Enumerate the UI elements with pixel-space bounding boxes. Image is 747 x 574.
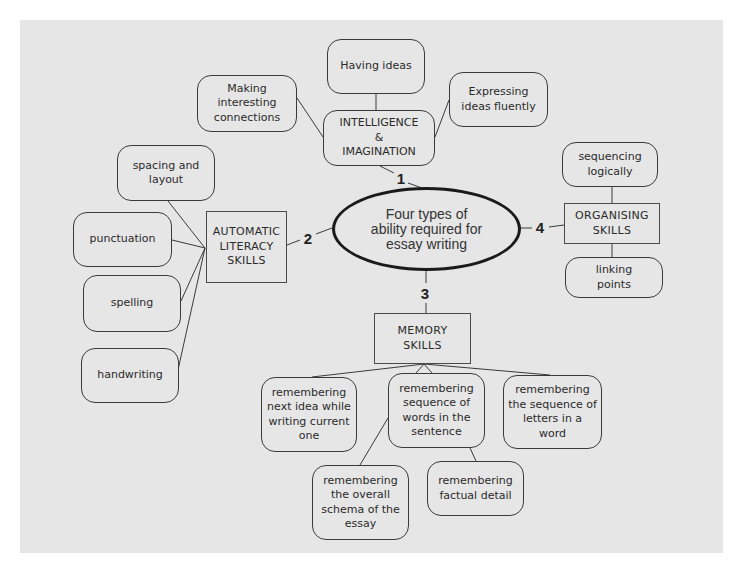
organising-skills-label: ORGANISING SKILLS — [575, 209, 649, 238]
intelligence-imagination-label: INTELLIGENCE & IMAGINATION — [340, 116, 419, 160]
central-topic-label: Four types of ability required for essay… — [371, 207, 482, 252]
spelling-node: spelling — [83, 275, 181, 332]
making-connections-label: Making interesting connections — [214, 82, 280, 126]
branch-number-1: 1 — [396, 171, 406, 186]
central-topic: Four types of ability required for essay… — [332, 187, 521, 271]
branch-number-4: 4 — [535, 220, 545, 235]
having-ideas-node: Having ideas — [327, 39, 425, 94]
spacing-layout-node: spacing and layout — [117, 145, 215, 201]
punctuation-label: punctuation — [89, 232, 155, 247]
remembering-factual-detail-node: remembering factual detail — [427, 461, 524, 516]
spelling-label: spelling — [111, 296, 154, 311]
automatic-literacy-label: AUTOMATIC LITERACY SKILLS — [213, 225, 280, 269]
sequencing-logically-label: sequencing logically — [578, 150, 641, 179]
expressing-ideas-node: Expressing ideas fluently — [449, 72, 548, 127]
linking-points-node: linking points — [565, 257, 663, 298]
remembering-letter-sequence-label: remembering the sequence of letters in a… — [508, 383, 597, 441]
intelligence-imagination-node: INTELLIGENCE & IMAGINATION — [323, 110, 435, 166]
sequencing-logically-node: sequencing logically — [562, 142, 658, 187]
branch-number-2: 2 — [303, 231, 313, 246]
automatic-literacy-node: AUTOMATIC LITERACY SKILLS — [206, 211, 287, 283]
remembering-schema-label: remembering the overall schema of the es… — [321, 474, 400, 532]
handwriting-label: handwriting — [97, 368, 163, 383]
spacing-layout-label: spacing and layout — [133, 159, 200, 188]
remembering-word-sequence-label: remembering sequence of words in the sen… — [399, 382, 474, 440]
expressing-ideas-label: Expressing ideas fluently — [461, 85, 535, 114]
branch-number-3: 3 — [420, 286, 430, 301]
remembering-next-idea-label: remembering next idea while writing curr… — [267, 386, 351, 444]
remembering-word-sequence-node: remembering sequence of words in the sen… — [388, 373, 485, 448]
punctuation-node: punctuation — [73, 212, 172, 267]
remembering-letter-sequence-node: remembering the sequence of letters in a… — [503, 375, 602, 449]
remembering-schema-node: remembering the overall schema of the es… — [312, 465, 409, 540]
memory-skills-node: MEMORY SKILLS — [374, 313, 471, 364]
organising-skills-node: ORGANISING SKILLS — [564, 203, 660, 244]
linking-points-label: linking points — [596, 263, 632, 292]
remembering-next-idea-node: remembering next idea while writing curr… — [261, 377, 357, 452]
remembering-factual-detail-label: remembering factual detail — [438, 474, 513, 503]
making-connections-node: Making interesting connections — [197, 75, 297, 132]
memory-skills-label: MEMORY SKILLS — [397, 324, 447, 353]
handwriting-node: handwriting — [81, 348, 179, 403]
having-ideas-label: Having ideas — [340, 59, 411, 74]
